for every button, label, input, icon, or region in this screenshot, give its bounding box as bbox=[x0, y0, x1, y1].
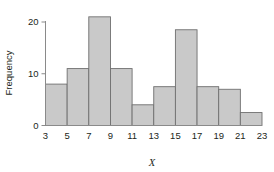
histogram-figure: 01020 357911131517192123 X Frequency bbox=[0, 0, 274, 172]
histogram-bar bbox=[132, 105, 154, 126]
x-tick-label: 3 bbox=[43, 130, 48, 141]
y-tick-label: 0 bbox=[33, 120, 38, 131]
y-tick-label: 10 bbox=[28, 68, 39, 79]
bars-group bbox=[46, 17, 263, 126]
x-tick-label: 7 bbox=[86, 130, 91, 141]
x-tick-label: 11 bbox=[127, 130, 137, 141]
x-tick-label: 17 bbox=[192, 130, 203, 141]
x-tick-label: 9 bbox=[108, 130, 113, 141]
y-axis-title: Frequency bbox=[3, 50, 14, 95]
x-tick-label: 23 bbox=[257, 130, 268, 141]
x-tick-label: 21 bbox=[235, 130, 246, 141]
histogram-bar bbox=[175, 30, 197, 126]
histogram-bar bbox=[219, 89, 241, 125]
histogram-bar bbox=[197, 87, 219, 126]
histogram-bar bbox=[67, 69, 89, 126]
histogram-plot-area: 01020 357911131517192123 X Frequency bbox=[0, 0, 274, 172]
histogram-bar bbox=[46, 84, 68, 125]
x-tick-label: 13 bbox=[148, 130, 159, 141]
y-axis-ticks: 01020 bbox=[28, 16, 46, 130]
x-axis-ticks: 357911131517192123 bbox=[43, 130, 267, 141]
x-tick-label: 5 bbox=[65, 130, 70, 141]
x-tick-label: 19 bbox=[213, 130, 224, 141]
histogram-bar bbox=[89, 17, 111, 126]
histogram-bar bbox=[240, 113, 262, 126]
x-tick-label: 15 bbox=[170, 130, 181, 141]
x-axis-title: X bbox=[148, 157, 156, 168]
histogram-bar bbox=[154, 87, 176, 126]
y-tick-label: 20 bbox=[28, 16, 39, 27]
histogram-bar bbox=[110, 69, 132, 126]
